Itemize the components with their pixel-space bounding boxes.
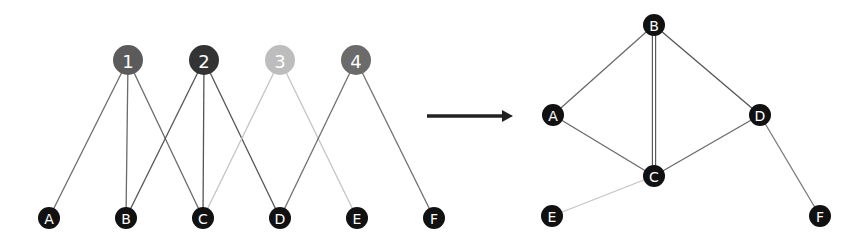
arrow-head: [502, 110, 513, 122]
proj-node-F: F: [809, 205, 831, 227]
top-node-4: 4: [341, 45, 371, 75]
edge-4-F: [356, 60, 434, 218]
proj-edge-C-D: [654, 115, 760, 176]
node-label: A: [44, 211, 54, 227]
node-label: 2: [198, 51, 209, 72]
node-label: 4: [350, 51, 361, 72]
node-label: C: [649, 169, 659, 185]
node-label: 3: [274, 51, 285, 72]
bipartite-top-nodes: 1234: [113, 45, 371, 75]
proj-edge-C-E: [552, 176, 654, 216]
bottom-node-E: E: [346, 207, 368, 229]
bottom-node-D: D: [269, 207, 291, 229]
node-label: C: [198, 211, 208, 227]
proj-edge-A-B: [553, 25, 654, 115]
network-diagram: 1234 ABCDEF BADCEF: [0, 0, 867, 251]
bottom-node-B: B: [115, 207, 137, 229]
proj-node-A: A: [542, 104, 564, 126]
projection-nodes: BADCEF: [541, 14, 831, 227]
bottom-node-C: C: [192, 207, 214, 229]
node-label: D: [755, 108, 766, 124]
projection-edges: [552, 25, 820, 216]
top-node-1: 1: [113, 45, 143, 75]
top-node-3: 3: [265, 45, 295, 75]
proj-edge-B-D: [654, 25, 760, 115]
edge-1-A: [49, 60, 128, 218]
bipartite-bottom-nodes: ABCDEF: [38, 207, 445, 229]
node-label: A: [548, 108, 558, 124]
bipartite-edges: [49, 60, 434, 218]
node-label: E: [353, 211, 362, 227]
edge-1-B: [126, 60, 128, 218]
proj-node-E: E: [541, 205, 563, 227]
proj-node-D: D: [749, 104, 771, 126]
node-label: B: [649, 18, 659, 34]
node-label: F: [430, 211, 438, 227]
node-label: 1: [122, 51, 133, 72]
proj-edge-A-C: [553, 115, 654, 176]
node-label: F: [816, 209, 824, 225]
bottom-node-F: F: [423, 207, 445, 229]
proj-node-C: C: [643, 165, 665, 187]
projection-arrow-icon: [427, 110, 513, 122]
edge-2-C: [203, 60, 204, 218]
node-label: E: [548, 209, 557, 225]
proj-edge-D-F: [760, 115, 820, 216]
proj-node-B: B: [643, 14, 665, 36]
node-label: D: [275, 211, 286, 227]
node-label: B: [121, 211, 131, 227]
top-node-2: 2: [189, 45, 219, 75]
bottom-node-A: A: [38, 207, 60, 229]
